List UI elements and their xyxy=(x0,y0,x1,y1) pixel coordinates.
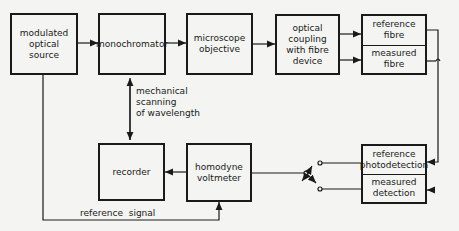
microscope-objective-block: microscope objective xyxy=(186,13,253,75)
measured-detection: measured detection xyxy=(363,174,425,202)
measured-fibre: measured fibre xyxy=(363,45,425,74)
detection-block: reference photodetection measured detect… xyxy=(361,144,427,204)
monochromator-block: monochromator xyxy=(98,13,166,75)
recorder-block: recorder xyxy=(98,143,165,201)
optical-coupling-block: optical coupling with fibre device xyxy=(275,14,340,75)
modulated-optical-source-block: modulated optical source xyxy=(10,13,78,75)
reference-fibre: reference fibre xyxy=(363,16,425,46)
homodyne-voltmeter-block: homodyne voltmeter xyxy=(186,143,252,202)
fibre-block: reference fibre measured fibre xyxy=(361,14,427,75)
scanning-annotation: mechanical scanning of wavelength xyxy=(136,86,200,119)
reference-signal-label: reference signal xyxy=(80,208,155,219)
reference-photodetection: reference photodetection xyxy=(363,146,425,175)
